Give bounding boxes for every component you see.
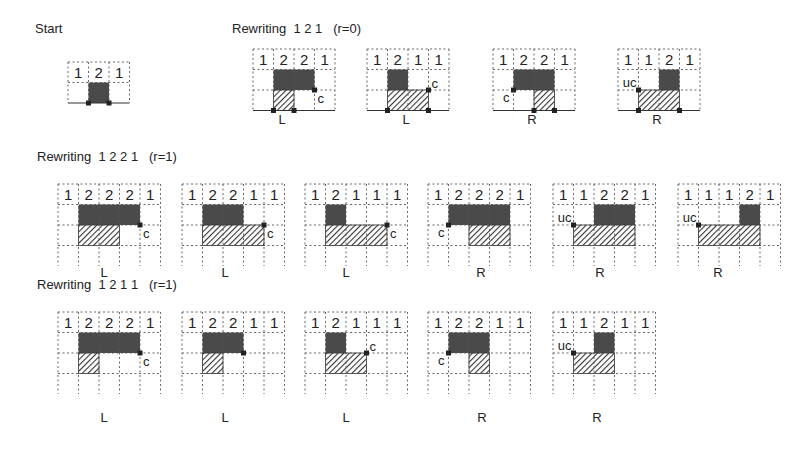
corner-marker-icon	[385, 223, 390, 228]
column-height-label: 2	[455, 186, 463, 203]
column-height-label: 2	[126, 186, 134, 203]
hatched-block	[469, 353, 490, 374]
column-height-label: 1	[270, 314, 278, 331]
hatched-block	[203, 225, 265, 246]
column-height-label: 2	[105, 186, 113, 203]
corner-marker-icon	[426, 88, 431, 93]
column-height-label: 2	[95, 64, 103, 81]
corner-marker-icon	[446, 351, 451, 356]
column-height-label: 1	[373, 51, 381, 68]
column-height-label: 1	[766, 186, 774, 203]
column-height-label: 1	[64, 186, 72, 203]
column-height-label: 1	[188, 314, 196, 331]
direction-label: L	[342, 410, 349, 425]
solid-block	[326, 333, 347, 354]
corner-annotation: uc	[558, 338, 572, 353]
grid-svg: 1211c	[366, 48, 450, 112]
column-height-label: 1	[434, 186, 442, 203]
grid-svg: 12111c	[304, 183, 409, 267]
section-title-start: Start	[35, 21, 62, 36]
direction-label: L	[100, 410, 107, 425]
grid-panel: 12221c	[57, 311, 162, 395]
grid-panel: 12211	[181, 311, 286, 395]
solid-block	[594, 333, 615, 354]
solid-block	[659, 70, 680, 91]
grid-panel: 12221c	[427, 183, 532, 267]
direction-label: R	[652, 112, 661, 127]
grid-svg: 1121uc	[617, 48, 701, 112]
column-height-label: 1	[270, 186, 278, 203]
hatched-block	[534, 90, 555, 111]
direction-label: L	[278, 112, 285, 127]
column-height-label: 1	[641, 314, 649, 331]
direction-label: R	[476, 265, 485, 280]
solid-block	[740, 205, 761, 226]
corner-marker-icon	[696, 223, 701, 228]
grid-panel: 1211c	[366, 48, 450, 112]
corner-marker-icon	[262, 223, 267, 228]
column-height-label: 1	[373, 186, 381, 203]
column-height-label: 1	[559, 314, 567, 331]
corner-marker-icon	[107, 101, 112, 106]
column-height-label: 1	[146, 314, 154, 331]
grid-svg: 11121uc	[677, 183, 782, 267]
grid-svg: 1221c	[252, 48, 336, 112]
column-height-label: 2	[280, 51, 288, 68]
grid-svg: 121	[67, 61, 131, 104]
grid-panel: 121	[67, 61, 131, 104]
column-height-label: 1	[321, 51, 329, 68]
corner-marker-icon	[364, 351, 369, 356]
column-height-label: 1	[686, 51, 694, 68]
corner-marker-icon	[292, 108, 297, 113]
grid-panel: 12211c	[181, 183, 286, 267]
corner-marker-icon	[446, 223, 451, 228]
column-height-label: 1	[352, 314, 360, 331]
grid-panel: 1121uc	[617, 48, 701, 112]
direction-label: L	[100, 265, 107, 280]
grid-panel: 11221uc	[552, 183, 657, 267]
corner-marker-icon	[241, 351, 246, 356]
section-title-rw1221: Rewriting 1 2 2 1 (r=1)	[37, 149, 177, 164]
column-height-label: 2	[600, 186, 608, 203]
column-height-label: 1	[188, 186, 196, 203]
column-height-label: 1	[373, 314, 381, 331]
direction-label: R	[713, 265, 722, 280]
column-height-label: 1	[435, 51, 443, 68]
column-height-label: 1	[725, 186, 733, 203]
corner-annotation: c	[318, 91, 325, 106]
grid-panel: 1221c	[252, 48, 336, 112]
column-height-label: 1	[352, 186, 360, 203]
corner-annotation: c	[438, 353, 445, 368]
column-height-label: 1	[641, 186, 649, 203]
grid-svg: 12211	[181, 311, 286, 395]
column-height-label: 2	[209, 186, 217, 203]
grid-svg: 12221c	[57, 311, 162, 395]
solid-block	[388, 70, 409, 91]
column-height-label: 2	[332, 314, 340, 331]
column-height-label: 1	[393, 186, 401, 203]
column-height-label: 2	[746, 186, 754, 203]
corner-annotation: uc	[683, 210, 697, 225]
solid-block	[79, 205, 141, 226]
corner-annotation: c	[432, 76, 439, 91]
column-height-label: 1	[499, 51, 507, 68]
grid-panel: 11121uc	[677, 183, 782, 267]
corner-marker-icon	[271, 108, 276, 113]
section-title-rw121: Rewriting 1 2 1 (r=0)	[232, 21, 361, 36]
grid-svg: 1221c	[492, 48, 576, 112]
corner-marker-icon	[138, 351, 143, 356]
grid-svg: 11221uc	[552, 183, 657, 267]
grid-svg: 12211c	[181, 183, 286, 267]
column-height-label: 2	[520, 51, 528, 68]
direction-label: R	[592, 410, 601, 425]
column-height-label: 1	[64, 314, 72, 331]
column-height-label: 2	[600, 314, 608, 331]
corner-marker-icon	[552, 108, 557, 113]
corner-marker-icon	[426, 108, 431, 113]
grid-panel: 12221c	[57, 183, 162, 267]
column-height-label: 2	[496, 186, 504, 203]
column-height-label: 1	[250, 186, 258, 203]
grid-panel: 12111c	[304, 183, 409, 267]
column-height-label: 1	[311, 186, 319, 203]
column-height-label: 1	[559, 186, 567, 203]
